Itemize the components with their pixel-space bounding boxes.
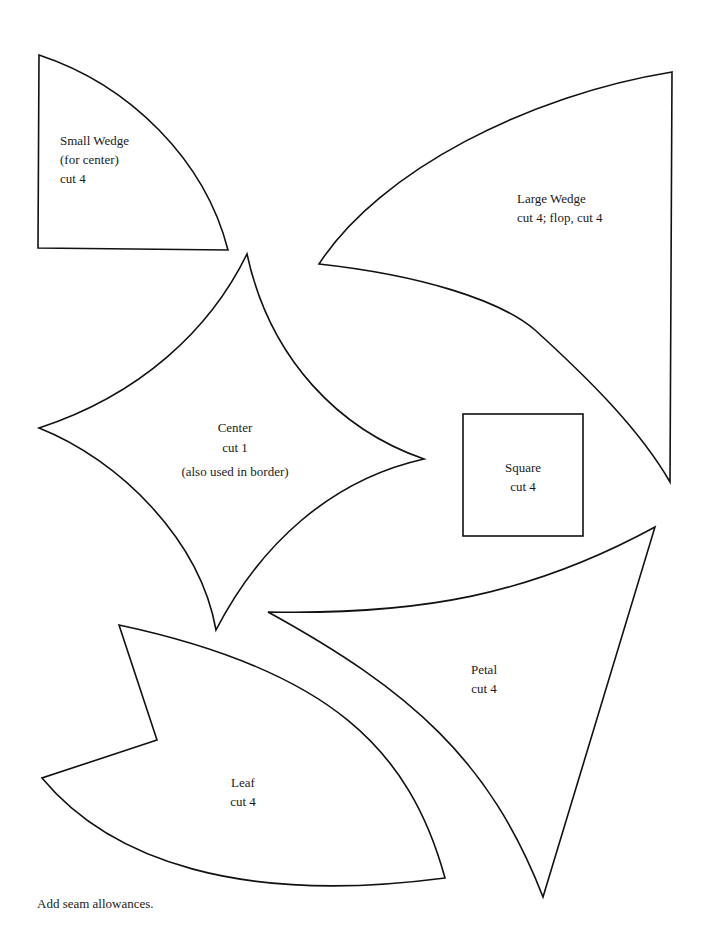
- large-wedge-name: Large Wedge: [517, 189, 603, 208]
- small-wedge-cut: cut 4: [60, 169, 129, 188]
- square-cut: cut 4: [505, 477, 541, 496]
- small-wedge-label: Small Wedge (for center) cut 4: [60, 131, 129, 188]
- petal-shape: [268, 527, 655, 897]
- large-wedge-shape: [319, 72, 672, 482]
- center-cut: cut 1: [181, 438, 288, 458]
- small-wedge-name: Small Wedge: [60, 131, 129, 150]
- petal-cut: cut 4: [471, 679, 497, 698]
- leaf-shape: [42, 625, 445, 886]
- center-note: (also used in border): [181, 462, 288, 482]
- center-name: Center: [181, 418, 288, 438]
- petal-label: Petal cut 4: [471, 660, 497, 698]
- petal-name: Petal: [471, 660, 497, 679]
- square-name: Square: [505, 458, 541, 477]
- leaf-label: Leaf cut 4: [230, 773, 256, 811]
- leaf-name: Leaf: [230, 773, 256, 792]
- seam-allowance-note: Add seam allowances.: [37, 894, 154, 913]
- large-wedge-label: Large Wedge cut 4; flop, cut 4: [517, 189, 603, 227]
- large-wedge-cut: cut 4; flop, cut 4: [517, 208, 603, 227]
- small-wedge-note: (for center): [60, 150, 129, 169]
- leaf-cut: cut 4: [230, 792, 256, 811]
- square-label: Square cut 4: [505, 458, 541, 496]
- center-label: Center cut 1 (also used in border): [181, 418, 288, 482]
